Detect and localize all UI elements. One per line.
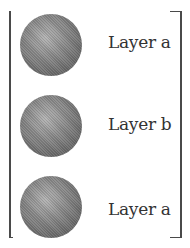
sphere-layer-1 [20, 14, 82, 76]
sphere-layer-3 [20, 176, 82, 238]
sphere-layer-2 [20, 95, 82, 157]
left-bracket-foot [9, 237, 13, 238]
layer-label-2: Layer b [108, 114, 178, 134]
layer-label-3: Layer a [108, 199, 178, 219]
left-bracket [9, 11, 11, 238]
layer-label-1: Layer a [108, 32, 178, 52]
